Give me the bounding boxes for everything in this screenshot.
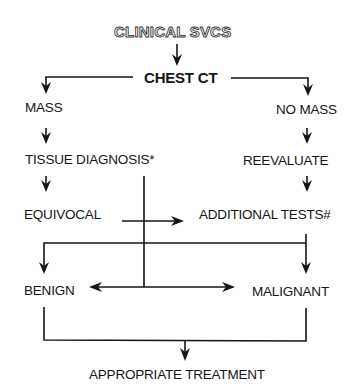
node-tissue-diagnosis: TISSUE DIAGNOSIS* xyxy=(25,152,154,168)
node-equivocal: EQUIVOCAL xyxy=(24,207,101,223)
arrow-start-to-chest-ct xyxy=(172,44,182,66)
flowchart: CLINICAL SVCS CHEST CT MASS NO MASS TISS… xyxy=(0,0,361,388)
node-appropriate-treatment: APPROPRIATE TREATMENT xyxy=(89,367,265,383)
arrow-tissue-diagnosis-to-benign-malignant xyxy=(89,282,235,292)
arrow-reevaluate-to-additional-tests xyxy=(302,176,312,192)
arrow-mass-to-tissue-diagnosis xyxy=(41,128,51,144)
node-no-mass: NO MASS xyxy=(276,102,337,118)
arrow-no-mass-to-reevaluate xyxy=(302,128,312,144)
node-additional-tests: ADDITIONAL TESTS# xyxy=(199,207,331,223)
node-clinical-svcs: CLINICAL SVCS xyxy=(114,24,231,40)
arrow-additional-tests-to-benign-malignant xyxy=(39,234,311,274)
node-benign: BENIGN xyxy=(24,283,75,299)
arrow-outcomes-to-treatment xyxy=(44,307,306,361)
arrow-chest-ct-to-no-mass xyxy=(231,78,313,96)
connector-lines xyxy=(0,0,361,388)
node-malignant: MALIGNANT xyxy=(252,284,329,300)
node-mass: MASS xyxy=(25,100,62,116)
node-reevaluate: REEVALUATE xyxy=(243,153,328,169)
node-chest-ct: CHEST CT xyxy=(144,70,217,86)
arrow-chest-ct-to-mass xyxy=(41,77,133,94)
arrow-tissue-diagnosis-to-equivocal xyxy=(41,176,51,192)
arrow-equivocal-to-additional-tests xyxy=(122,216,184,226)
